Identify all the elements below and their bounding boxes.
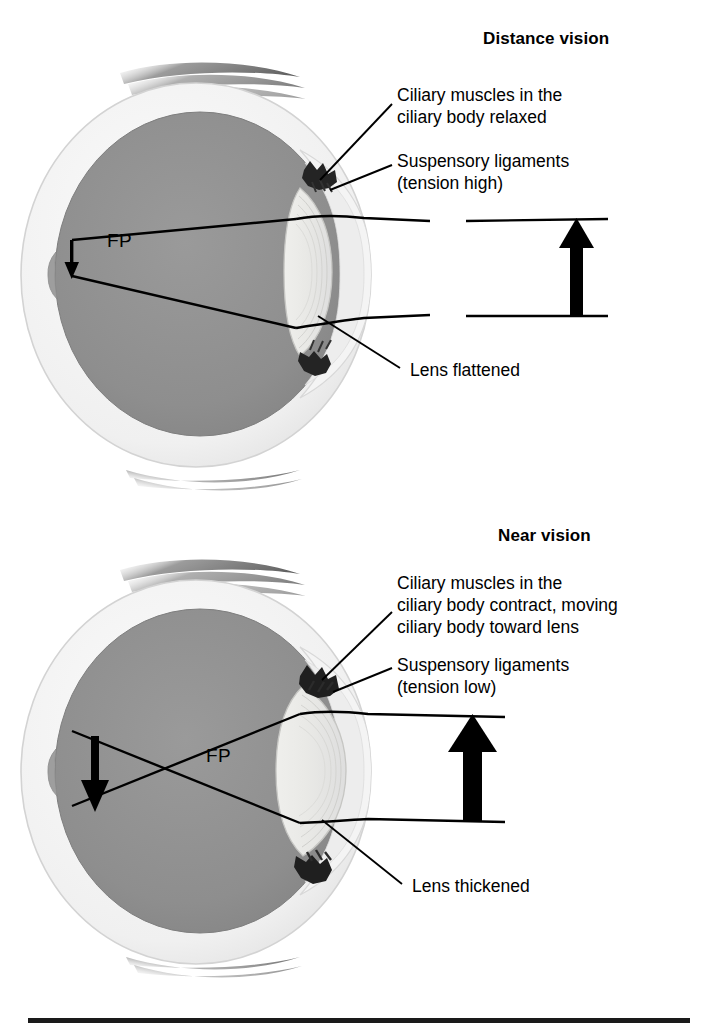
callout-lens-thickened: Lens thickened [412, 876, 530, 896]
callout-ciliary-muscles-distance: Ciliary muscles in the ciliary body rela… [397, 85, 567, 127]
panel-title-near: Near vision [498, 526, 591, 545]
callout-lens-flattened: Lens flattened [410, 360, 520, 380]
object-ray-top-distance [466, 219, 608, 221]
callout-ciliary-muscles-near: Ciliary muscles in the ciliary body cont… [397, 573, 623, 637]
panel-distance-vision: FP Distance vision Ciliary muscles in th… [21, 29, 609, 491]
object-arrow-near [448, 714, 497, 822]
object-arrow-distance [559, 218, 594, 316]
callout-suspensory-ligaments-distance: Suspensory ligaments (tension high) [397, 151, 574, 193]
object-rays-distance [466, 219, 608, 316]
panel-title-distance: Distance vision [483, 29, 609, 48]
focal-point-label-distance: FP [107, 230, 132, 251]
eye-accommodation-figure: FP Distance vision Ciliary muscles in th… [0, 0, 701, 1028]
panel-near-vision: FP Near vision Ciliary muscles in the ci… [21, 526, 623, 978]
leader-ciliary-near [322, 612, 392, 680]
bottom-divider-rule [28, 1018, 690, 1023]
callout-suspensory-ligaments-near: Suspensory ligaments (tension low) [397, 655, 574, 697]
focal-point-label-near: FP [206, 745, 231, 766]
extraocular-muscle-bottom [126, 470, 302, 491]
figure-page: FP Distance vision Ciliary muscles in th… [0, 0, 701, 1028]
